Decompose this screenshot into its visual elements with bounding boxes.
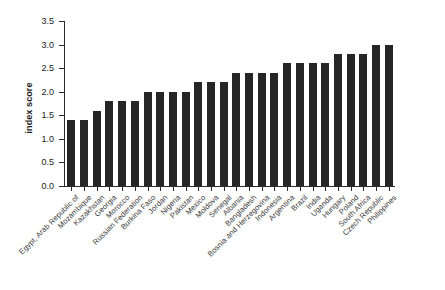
bar	[347, 54, 355, 186]
y-axis-tick-mark	[59, 186, 64, 187]
y-axis-tick-mark	[59, 45, 64, 46]
bar	[169, 92, 177, 186]
bar	[67, 120, 75, 186]
x-axis-tick-mark	[274, 187, 275, 191]
y-axis-tick-label: 3.0	[41, 40, 54, 50]
x-axis-tick-mark	[338, 187, 339, 191]
x-axis-tick-mark	[186, 187, 187, 191]
x-axis-tick-mark	[211, 187, 212, 191]
x-axis-tick-mark	[249, 187, 250, 191]
y-axis-label-text: index score	[24, 82, 34, 133]
x-axis-tick-mark	[287, 187, 288, 191]
x-axis-tick-mark	[262, 187, 263, 191]
y-axis-tick-mark	[59, 92, 64, 93]
x-axis-tick-mark	[376, 187, 377, 191]
bar	[105, 101, 113, 186]
x-axis-tick-mark	[313, 187, 314, 191]
bar	[220, 82, 228, 186]
y-axis-tick-mark	[59, 68, 64, 69]
y-axis-label: index score	[22, 60, 36, 155]
x-axis-tick-label-text: Egypt, Arab Republic of	[17, 193, 80, 256]
y-axis-tick-mark	[59, 139, 64, 140]
y-axis-tick-label: 2.5	[41, 63, 54, 73]
x-axis-tick-mark	[198, 187, 199, 191]
bar	[270, 73, 278, 186]
bar	[309, 63, 317, 186]
bar	[182, 92, 190, 186]
plot-area	[65, 21, 395, 186]
y-axis-tick-mark	[59, 162, 64, 163]
bar	[207, 82, 215, 186]
y-axis-tick-label: 3.5	[41, 16, 54, 26]
bar	[144, 92, 152, 186]
bar	[372, 45, 380, 186]
x-axis-tick-mark	[389, 187, 390, 191]
bar	[385, 45, 393, 186]
y-axis-tick-mark	[59, 115, 64, 116]
bar	[258, 73, 266, 186]
bar	[93, 111, 101, 186]
bar	[80, 120, 88, 186]
bar	[194, 82, 202, 186]
bar	[245, 73, 253, 186]
bar	[131, 101, 139, 186]
bar	[334, 54, 342, 186]
x-axis-tick-mark	[122, 187, 123, 191]
x-axis-tick-mark	[97, 187, 98, 191]
x-axis-tick-label: Egypt, Arab Republic of	[17, 193, 80, 256]
x-axis-tick-mark	[148, 187, 149, 191]
y-axis-tick-label: 0.5	[41, 157, 54, 167]
bar-chart-figure: index score 0.00.51.01.52.02.53.03.5 Egy…	[0, 0, 445, 290]
x-axis-tick-mark	[300, 187, 301, 191]
y-axis-tick-label: 0.0	[41, 181, 54, 191]
bar	[359, 54, 367, 186]
x-axis-tick-mark	[135, 187, 136, 191]
x-axis-tick-mark	[71, 187, 72, 191]
x-axis-tick-mark	[351, 187, 352, 191]
x-axis-tick-mark	[224, 187, 225, 191]
x-axis-tick-mark	[236, 187, 237, 191]
x-axis-tick-mark	[173, 187, 174, 191]
x-axis-line	[64, 186, 395, 187]
x-axis-tick-mark	[363, 187, 364, 191]
x-axis-tick-mark	[109, 187, 110, 191]
x-axis-tick-mark	[84, 187, 85, 191]
x-axis-tick-mark	[160, 187, 161, 191]
bar	[118, 101, 126, 186]
y-axis-tick-label: 1.0	[41, 134, 54, 144]
bar	[232, 73, 240, 186]
bar	[296, 63, 304, 186]
bar	[156, 92, 164, 186]
y-axis-tick-label: 1.5	[41, 110, 54, 120]
bar	[283, 63, 291, 186]
x-axis-tick-mark	[325, 187, 326, 191]
y-axis-tick-mark	[59, 21, 64, 22]
y-axis-tick-label: 2.0	[41, 87, 54, 97]
bar	[321, 63, 329, 186]
